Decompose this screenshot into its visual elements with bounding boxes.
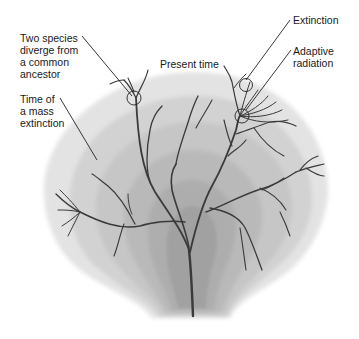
label-extinction: Extinction xyxy=(293,14,339,26)
label-present-time: Present time xyxy=(160,58,219,70)
time-bands xyxy=(44,72,328,318)
leader-extinction xyxy=(246,20,290,80)
label-mass-extinction: Time of a mass extinction xyxy=(20,93,64,129)
leader-diverge xyxy=(82,36,132,96)
label-adaptive-radiation: Adaptive radiation xyxy=(293,45,334,69)
label-diverge: Two species diverge from a common ancest… xyxy=(20,32,78,80)
